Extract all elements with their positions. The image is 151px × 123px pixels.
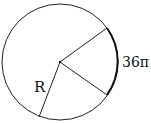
center-point [59,61,61,63]
radius-label: R [34,78,46,96]
lower-sector-radius [60,62,107,95]
upper-sector-radius [60,28,107,62]
arc-length-label: 36π [122,54,149,70]
circle-diagram: R 36π [0,0,151,123]
highlighted-arc [107,28,118,95]
